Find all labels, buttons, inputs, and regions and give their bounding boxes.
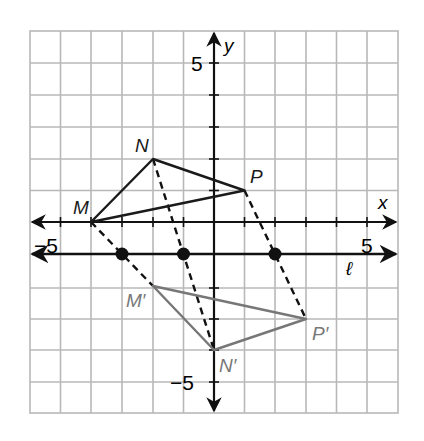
- y-tick-label-5: 5: [191, 52, 203, 75]
- y-tick-label-neg5: −5: [170, 371, 194, 394]
- midpoint-dot: [177, 248, 190, 261]
- midpoint-dot: [116, 248, 129, 261]
- vertex-label-N-prime: N′: [219, 355, 238, 376]
- vertex-label-M: M: [73, 197, 89, 218]
- vertex-label-N: N: [135, 135, 149, 156]
- x-axis-label: x: [377, 192, 389, 213]
- triangle-MNP-image: [153, 286, 306, 350]
- vertex-label-P-prime: P′: [312, 323, 330, 344]
- vertex-label-P: P: [250, 166, 263, 187]
- coordinate-plane: x y 5 −5 −5 5 ℓ: [0, 0, 424, 441]
- vertex-label-M-prime: M′: [126, 290, 147, 311]
- y-axis-label: y: [222, 35, 235, 56]
- reflection-line-label: ℓ: [345, 258, 353, 279]
- midpoint-dot: [269, 248, 282, 261]
